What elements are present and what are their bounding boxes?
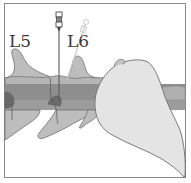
label-l6: L6 (67, 31, 89, 51)
spine-needle-illustration: L5 L6 (0, 0, 191, 183)
label-l5: L5 (9, 31, 31, 51)
